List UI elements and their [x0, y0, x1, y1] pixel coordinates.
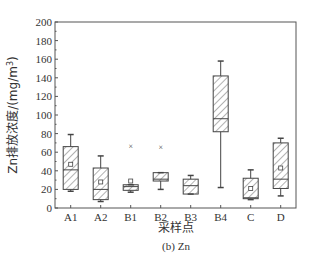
iqr-box [63, 147, 78, 190]
boxes-layer: ×× [63, 61, 288, 201]
mean-marker [99, 180, 103, 184]
y-tick-label: 60 [41, 146, 53, 158]
mean-marker [249, 186, 253, 190]
box-b2: × [153, 143, 168, 190]
y-tick-label: 20 [41, 183, 53, 195]
y-tick-label: 80 [41, 128, 53, 140]
box-c [243, 170, 258, 200]
iqr-box [183, 179, 198, 194]
iqr-box [213, 76, 228, 132]
mean-marker [129, 179, 133, 183]
iqr-box [153, 173, 168, 181]
figure-caption: (b) Zn [162, 240, 190, 253]
y-axis-title: Zn排放浓度/(mg/m3) [5, 56, 20, 173]
box-b3 [183, 175, 198, 194]
x-tick-label: B1 [124, 211, 137, 223]
x-tick-label: A2 [94, 211, 107, 223]
box-a2 [93, 156, 108, 202]
box-a1 [63, 135, 78, 192]
mean-marker [69, 162, 73, 166]
outlier-marker: × [128, 142, 133, 151]
y-tick-label: 160 [36, 53, 53, 65]
box-d [273, 138, 288, 196]
outlier-marker: × [158, 143, 163, 152]
y-tick-label: 100 [36, 109, 53, 121]
box-b4 [213, 61, 228, 187]
box-b1: × [123, 142, 138, 193]
y-tick-label: 40 [41, 165, 53, 177]
y-tick-label: 200 [36, 16, 53, 28]
x-tick-label: C [247, 211, 254, 223]
plot-border [55, 22, 296, 208]
y-tick-label: 140 [36, 72, 53, 84]
iqr-box [123, 185, 138, 191]
y-tick-label: 0 [47, 202, 53, 214]
x-tick-label: B4 [214, 211, 227, 223]
mean-marker [279, 166, 283, 170]
y-tick-label: 180 [36, 35, 53, 47]
x-axis-title: 采样点 [158, 220, 194, 235]
y-tick-label: 120 [36, 90, 53, 102]
x-tick-label: A1 [64, 211, 77, 223]
box-plot-chart: 020406080100120140160180200 A1A2B1B2B3B4… [0, 0, 312, 265]
plot-frame [55, 22, 296, 208]
x-tick-label: D [277, 211, 285, 223]
